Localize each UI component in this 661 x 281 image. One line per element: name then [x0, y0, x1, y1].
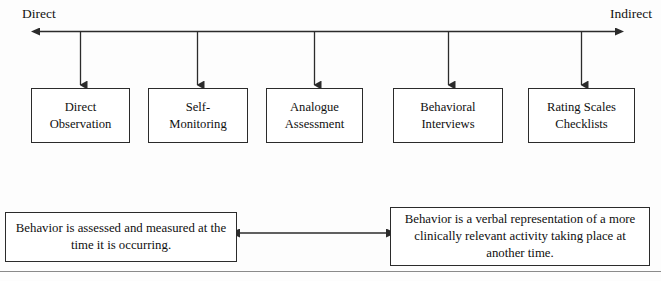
- assessment-continuum-figure: Direct Indirect Direct Observation Self-…: [0, 0, 661, 281]
- method-box-direct-observation: Direct Observation: [31, 88, 130, 143]
- axis-to-box-connectors: [81, 32, 582, 86]
- method-label-line1: Analogue: [285, 99, 344, 115]
- axis-label-indirect: Indirect: [610, 7, 652, 21]
- method-box-rating-scales-checklists: Rating Scales Checklists: [528, 88, 635, 143]
- method-box-self-monitoring: Self- Monitoring: [148, 88, 248, 143]
- axis-label-direct: Direct: [22, 7, 56, 21]
- method-label-line2: Assessment: [285, 116, 344, 132]
- method-box-behavioral-interviews: Behavioral Interviews: [393, 88, 503, 143]
- method-label-line1: Direct: [50, 99, 112, 115]
- footer-divider: [0, 271, 661, 272]
- description-box-indirect: Behavior is a verbal representation of a…: [390, 207, 650, 266]
- method-label-line2: Monitoring: [169, 116, 226, 132]
- method-label-line2: Observation: [50, 116, 112, 132]
- description-box-direct: Behavior is assessed and measured at the…: [5, 212, 237, 262]
- method-label-line2: Interviews: [420, 116, 475, 132]
- method-label-line1: Behavioral: [420, 99, 475, 115]
- method-box-analogue-assessment: Analogue Assessment: [266, 88, 363, 143]
- method-label-line1: Rating Scales: [547, 99, 616, 115]
- method-label-line1: Self-: [169, 99, 226, 115]
- method-label-line2: Checklists: [547, 116, 616, 132]
